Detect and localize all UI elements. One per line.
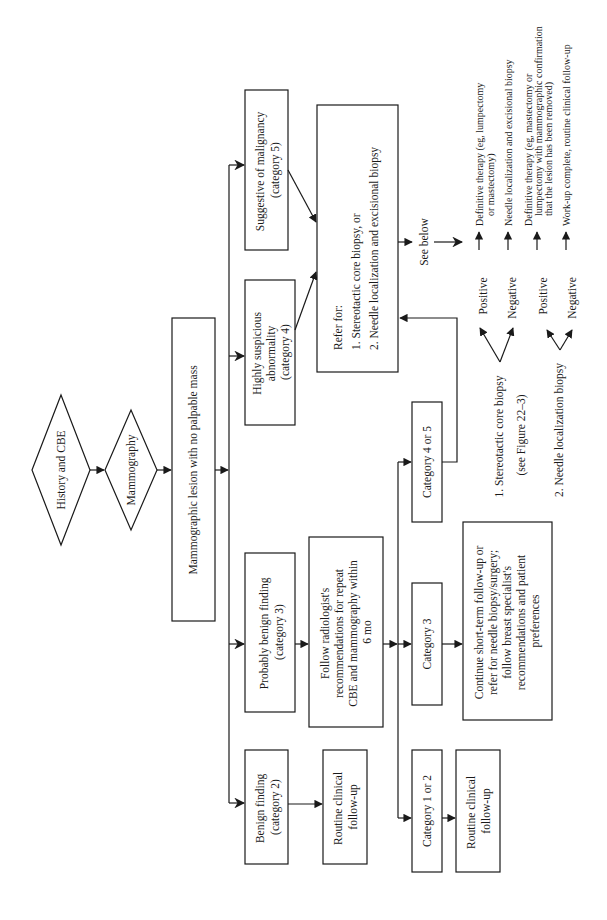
- svg-text:Positive: Positive: [477, 277, 489, 314]
- probably-benign-label: Probably benign finding: [258, 577, 271, 689]
- history-cbe-label: History and CBE: [55, 430, 68, 509]
- mammography-label: Mammography: [125, 434, 138, 505]
- svg-text:Category 3: Category 3: [421, 618, 434, 669]
- cat-4-5-label: Category 4 or 5: [421, 426, 434, 498]
- needle-negative-label: Negative: [566, 277, 579, 319]
- outcome-4: Work-up complete, routine clinical follo…: [561, 44, 572, 250]
- suspicious-label: Highly suspicious: [251, 312, 264, 395]
- needle-positive-label: Positive: [537, 277, 549, 314]
- arrow-stereotactic-negative: [500, 328, 513, 362]
- arrow-malignancy-to-refer: [288, 170, 316, 222]
- cat-1-2-label: Category 1 or 2: [421, 775, 434, 847]
- svg-text:Needle localization and excisi: Needle localization and excisional biops…: [503, 59, 514, 226]
- svg-text:Mammographic lesion with no pa: Mammographic lesion with no palpable mas…: [187, 365, 200, 575]
- continue-label-3: follow breast specialist's: [501, 566, 514, 679]
- cat-4-5-box: Category 4 or 5: [412, 402, 442, 522]
- benign-box: Benign finding (category 2): [245, 750, 288, 864]
- outcome-3-line-3: that the lesion has been removed): [543, 82, 555, 216]
- svg-text:Negative: Negative: [566, 277, 579, 319]
- mammography-flowchart: History and CBE Mammography Mammographic…: [0, 0, 607, 920]
- stereotactic-negative-label: Negative: [506, 277, 519, 319]
- refer-for-heading: Refer for:: [332, 305, 344, 350]
- benign-category: (category 2): [269, 779, 282, 835]
- lesion-label: Mammographic lesion with no palpable mas…: [187, 365, 200, 575]
- malignancy-label: Suggestive of malignancy: [254, 111, 267, 231]
- follow-label-3: CBE and mammography within: [347, 560, 360, 707]
- svg-text:Positive: Positive: [537, 277, 549, 314]
- follow-radiologist-box: Follow radiologist's recommendations for…: [309, 537, 383, 727]
- refer-option-stereotactic: 1. Stereotactic core biopsy, or: [350, 213, 363, 350]
- svg-text:Mammography: Mammography: [125, 434, 138, 505]
- cat-3-label: Category 3: [421, 618, 434, 669]
- biopsy-option-needle: 2. Needle localization biopsy Positive N…: [537, 277, 579, 497]
- lesion-box: Mammographic lesion with no palpable mas…: [172, 318, 215, 621]
- cat-1-2-box: Category 1 or 2: [412, 750, 442, 872]
- malignancy-box: Suggestive of malignancy (category 5): [245, 90, 288, 250]
- stereotactic-positive-label: Positive: [477, 277, 489, 314]
- refer-for-box: Refer for: 1. Stereotactic core biopsy, …: [317, 105, 398, 372]
- continue-label-1: Continue short-term follow-up or: [473, 545, 486, 699]
- svg-text:Category 1 or 2: Category 1 or 2: [421, 775, 434, 847]
- malignancy-category: (category 5): [269, 142, 282, 198]
- biopsy-option-stereotactic: 1. Stereotactic core biopsy (see Figure …: [477, 277, 528, 497]
- svg-text:See below: See below: [418, 218, 430, 266]
- benign-label: Benign finding: [254, 774, 267, 844]
- continue-label-4: recommendations and patient: [515, 554, 528, 690]
- stereotactic-label: 1. Stereotactic core biopsy: [493, 375, 506, 497]
- continue-box: Continue short-term follow-up or refer f…: [463, 522, 552, 720]
- arrow-suspicious-to-refer: [295, 272, 316, 330]
- svg-text:Definitive therapy (eg, lumpec: Definitive therapy (eg, lumpectomy or ma…: [474, 80, 497, 226]
- cat-3-box: Category 3: [412, 583, 442, 705]
- mammography-decision: Mammography: [105, 410, 157, 530]
- suspicious-label-2: abnormality: [265, 325, 278, 381]
- needle-label: 2. Needle localization biopsy: [553, 363, 566, 497]
- routine-left-label: Routine clinical: [332, 772, 344, 845]
- svg-text:Work-up complete, routine clin: Work-up complete, routine clinical follo…: [561, 44, 572, 226]
- continue-label-5: preferences: [529, 594, 542, 648]
- follow-label-1: Follow radiologist's: [319, 587, 332, 679]
- continue-label-2: refer for needle biopsy/surgery;: [487, 550, 500, 695]
- probably-benign-category: (category 3): [273, 604, 286, 660]
- outcome-2: Needle localization and excisional biops…: [503, 59, 514, 250]
- outcome-3: Definitive therapy (eg, mastectomy or lu…: [523, 24, 555, 250]
- outcome-4-line-1: Work-up complete, routine clinical follo…: [561, 44, 572, 226]
- suspicious-box: Highly suspicious abnormality (category …: [245, 280, 295, 425]
- routine-right-box: Routine clinical follow-up: [456, 750, 500, 872]
- svg-text:Negative: Negative: [506, 277, 519, 319]
- follow-label-4: 6 mo: [361, 620, 373, 644]
- probably-benign-box: Probably benign finding (category 3): [245, 553, 295, 712]
- follow-label-2: recommendations for repeat: [333, 568, 346, 698]
- svg-text:2. Needle localization biopsy: 2. Needle localization biopsy: [553, 363, 566, 497]
- svg-text:History and CBE: History and CBE: [55, 430, 68, 509]
- refer-option-needle: 2. Needle localization and excisional bi…: [368, 147, 381, 350]
- arrow-needle-negative: [560, 330, 572, 350]
- arrow-needle-positive: [547, 330, 560, 350]
- routine-right-label-2: follow-up: [480, 788, 493, 834]
- routine-right-label: Routine clinical: [465, 776, 477, 849]
- arrow-stereotactic-positive: [480, 328, 500, 362]
- svg-text:Category 4 or 5: Category 4 or 5: [421, 426, 434, 498]
- routine-left-box: Routine clinical follow-up: [323, 750, 367, 864]
- outcome-1-line-2: or mastectomy): [485, 154, 497, 216]
- outcome-1: Definitive therapy (eg, lumpectomy or ma…: [474, 80, 497, 250]
- stereotactic-note: (see Figure 22–3): [515, 394, 528, 475]
- routine-left-label-2: follow-up: [347, 784, 360, 830]
- svg-text:Definitive therapy (eg, mastec: Definitive therapy (eg, mastectomy or lu…: [523, 24, 555, 226]
- svg-text:1. Stereotactic core biopsy: 1. Stereotactic core biopsy (see Figure …: [493, 373, 528, 498]
- see-below-label: See below: [418, 218, 430, 266]
- history-cbe-decision: History and CBE: [32, 395, 90, 545]
- outcome-2-line-1: Needle localization and excisional biops…: [503, 59, 514, 226]
- suspicious-category: (category 4): [279, 324, 292, 380]
